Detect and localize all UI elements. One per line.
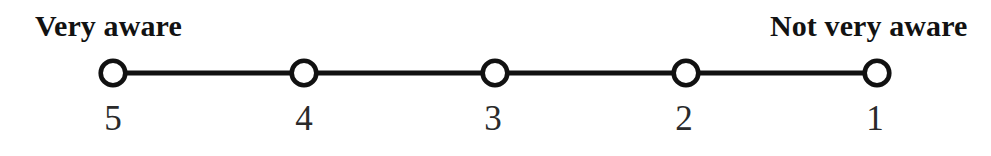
scale-tick-label-5: 5 <box>91 100 135 138</box>
scale-option-3[interactable] <box>483 61 508 86</box>
scale-tick-label-3: 3 <box>471 100 515 138</box>
scale-option-5[interactable] <box>101 61 126 86</box>
scale-tick-label-2: 2 <box>662 100 706 138</box>
scale-option-2[interactable] <box>674 61 699 86</box>
rating-scale-figure: Very aware Not very aware 5 4 3 2 1 <box>0 0 991 156</box>
scale-tick-label-1: 1 <box>853 100 897 138</box>
scale-option-4[interactable] <box>292 61 317 86</box>
scale-tick-label-4: 4 <box>282 100 326 138</box>
scale-option-1[interactable] <box>865 61 890 86</box>
